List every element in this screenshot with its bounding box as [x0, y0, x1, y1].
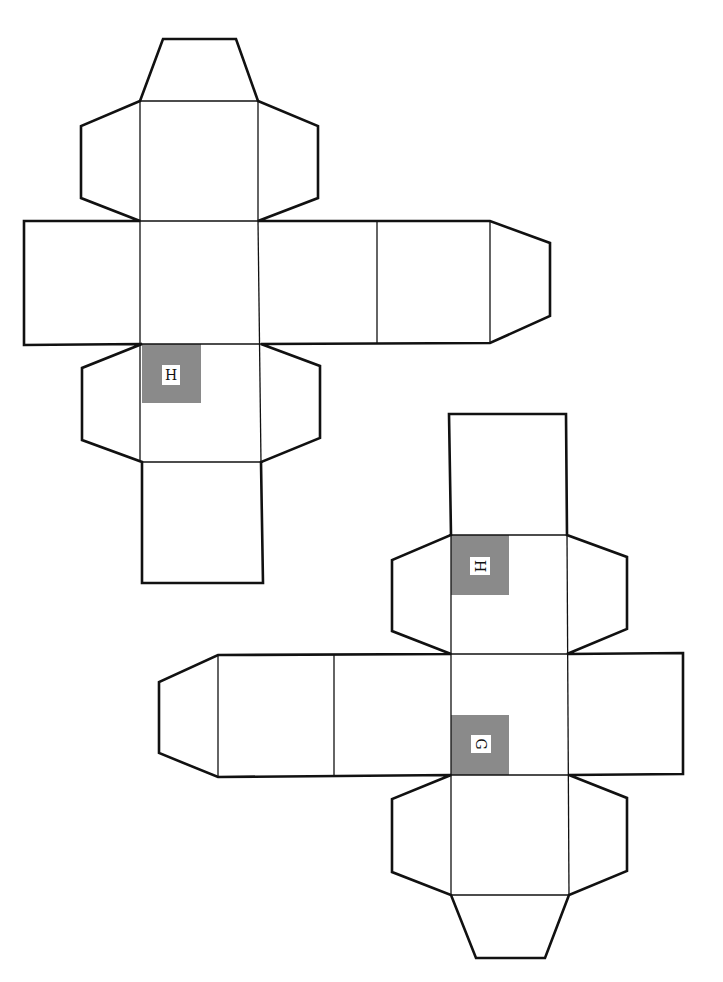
label-h-net1: H [162, 365, 180, 385]
cube-net-2: H G [159, 414, 683, 958]
fold-lines [218, 535, 569, 895]
label-h-net2: H [470, 557, 490, 575]
label-text: G [473, 738, 489, 749]
label-g-net2: G [471, 735, 491, 753]
label-text: H [472, 560, 488, 572]
net-2-outline [159, 414, 683, 958]
cube-net-1: H [24, 39, 550, 583]
diagram-canvas: H H G [0, 0, 723, 982]
net-1-outline [24, 39, 550, 583]
fold-lines [140, 101, 490, 462]
label-text: H [165, 367, 177, 383]
